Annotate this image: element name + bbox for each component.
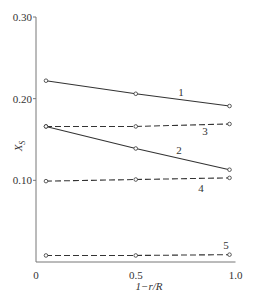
data-point-marker xyxy=(44,179,48,183)
data-point-marker xyxy=(134,254,138,258)
data-point-marker xyxy=(134,147,138,151)
data-point-marker xyxy=(44,254,48,258)
data-point-marker xyxy=(134,125,138,129)
series-2-label: 2 xyxy=(176,144,182,156)
y-axis-label: XS xyxy=(12,141,27,153)
data-point-marker xyxy=(134,178,138,182)
x-tick-label: 0 xyxy=(33,269,39,281)
series-4-label: 4 xyxy=(198,182,204,194)
data-point-marker xyxy=(228,168,232,172)
data-point-marker xyxy=(228,104,232,108)
data-point-marker xyxy=(228,122,232,126)
data-point-marker xyxy=(44,79,48,83)
y-tick-label: 0.10 xyxy=(13,174,33,186)
data-point-marker xyxy=(228,253,232,257)
series-1-label: 1 xyxy=(178,86,184,98)
data-point-marker xyxy=(134,92,138,96)
series-3-label: 3 xyxy=(202,125,208,137)
data-point-marker xyxy=(228,176,232,180)
y-tick-label: 0.30 xyxy=(13,11,33,23)
y-tick-label: 0.20 xyxy=(13,93,33,105)
series-5-label: 5 xyxy=(223,239,229,251)
data-point-marker xyxy=(44,125,48,129)
x-axis-label: 1−r/R xyxy=(136,280,163,292)
line-chart: 0.100.200.3000.51.01−r/RXS12345 xyxy=(0,0,255,303)
x-tick-label: 1.0 xyxy=(229,269,243,281)
